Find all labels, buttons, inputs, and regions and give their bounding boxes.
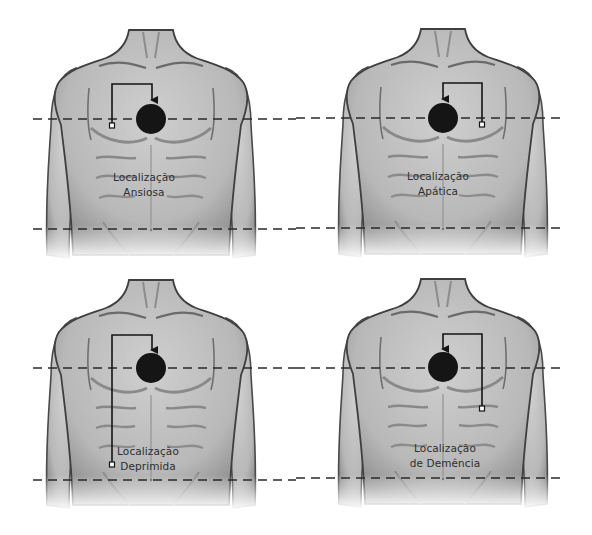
label-deprimida: Localização Deprimida	[88, 444, 208, 474]
heart-marker-circle	[136, 104, 166, 134]
heart-marker-circle	[428, 103, 458, 133]
label-demencia: Localização de Demência	[385, 441, 505, 471]
panel-ansiosa	[33, 30, 296, 260]
panel-demencia	[296, 279, 562, 509]
torso-illustration	[333, 279, 553, 509]
label-line-2: Apática	[378, 184, 498, 199]
label-line-2: de Demência	[385, 456, 505, 471]
source-point-square	[480, 122, 485, 127]
source-point-square	[110, 123, 115, 128]
source-point-square	[480, 406, 485, 411]
torso-illustration	[41, 30, 261, 260]
label-line-2: Deprimida	[88, 459, 208, 474]
panel-deprimida	[33, 280, 296, 510]
label-line-2: Ansiosa	[84, 185, 204, 200]
label-ansiosa: Localização Ansiosa	[84, 170, 204, 200]
label-line-1: Localização	[88, 444, 208, 459]
torso-illustration	[41, 280, 261, 510]
heart-marker-circle	[136, 353, 166, 383]
label-line-1: Localização	[84, 170, 204, 185]
panel-apatica	[296, 29, 562, 259]
label-line-1: Localização	[378, 169, 498, 184]
torso-illustration	[333, 29, 553, 259]
label-apatica: Localização Apática	[378, 169, 498, 199]
heart-marker-circle	[428, 352, 458, 382]
label-line-1: Localização	[385, 441, 505, 456]
